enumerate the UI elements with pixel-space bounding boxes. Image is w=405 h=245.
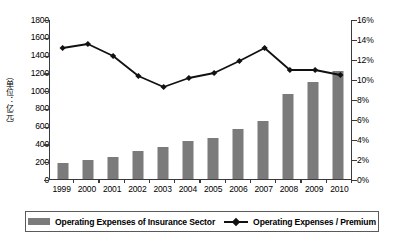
legend-label-line: Operating Expenses / Premium	[253, 217, 376, 227]
line-marker-1999	[60, 45, 66, 51]
x-axis-label-2004: 2004	[175, 183, 200, 197]
combo-chart: （单位：亿元） 02004006008001000120014001600180…	[0, 0, 405, 245]
left-axis-tick-label: 600	[3, 122, 49, 131]
legend-entry-bar: Operating Expenses of Insurance Sector	[28, 217, 215, 227]
x-axis-label-2009: 2009	[302, 183, 327, 197]
right-axis-tick-label: 10%	[357, 76, 397, 85]
line-series-layer	[50, 20, 353, 180]
line-marker-2005	[211, 70, 217, 76]
left-axis-tick-label: 0	[3, 176, 49, 185]
left-axis-tick-label: 1000	[3, 87, 49, 96]
x-axis-label-2002: 2002	[125, 183, 150, 197]
x-axis-label-2005: 2005	[201, 183, 226, 197]
right-axis-tick-label: 0%	[357, 176, 397, 185]
right-axis-tick-label: 16%	[357, 16, 397, 25]
line-diamond-marker-icon	[224, 217, 248, 226]
right-axis-tick-label: 8%	[357, 96, 397, 105]
left-axis-tick-label: 1400	[3, 51, 49, 60]
plot-area	[49, 20, 352, 180]
right-axis-tick-label: 6%	[357, 116, 397, 125]
right-axis-tick-label: 12%	[357, 56, 397, 65]
x-axis-label-2006: 2006	[226, 183, 251, 197]
right-axis-tick-mark	[352, 180, 357, 181]
left-axis-tick-label: 400	[3, 140, 49, 149]
chart-legend: Operating Expenses of Insurance Sector O…	[25, 211, 379, 232]
legend-entry-line: Operating Expenses / Premium	[224, 217, 376, 227]
line-marker-2009	[312, 67, 318, 73]
x-axis-label-2008: 2008	[276, 183, 301, 197]
x-axis-label-2000: 2000	[74, 183, 99, 197]
x-axis-category-labels: 1999200020012002200320042005200620072008…	[49, 183, 352, 197]
left-axis-tick-label: 200	[3, 158, 49, 167]
line-marker-2000	[85, 41, 91, 47]
x-axis-label-2010: 2010	[327, 183, 352, 197]
left-axis-tick-label: 1200	[3, 69, 49, 78]
line-marker-2006	[236, 58, 242, 64]
x-axis-label-1999: 1999	[49, 183, 74, 197]
left-axis-tick-label: 800	[3, 104, 49, 113]
x-axis-label-2001: 2001	[100, 183, 125, 197]
left-axis-tick-label: 1800	[3, 16, 49, 25]
x-axis-label-2007: 2007	[251, 183, 276, 197]
right-axis-tick-label: 14%	[357, 36, 397, 45]
bar-swatch-icon	[28, 218, 50, 225]
line-path	[63, 44, 341, 87]
line-marker-2010	[337, 72, 343, 78]
line-marker-2003	[161, 84, 167, 90]
x-axis-label-2003: 2003	[150, 183, 175, 197]
y-axis-unit-label: （单位：亿元）	[1, 72, 13, 128]
legend-label-bar: Operating Expenses of Insurance Sector	[55, 217, 215, 227]
left-axis-tick-label: 1600	[3, 33, 49, 42]
right-axis-tick-label: 2%	[357, 156, 397, 165]
line-marker-2004	[186, 75, 192, 81]
right-axis-tick-label: 4%	[357, 136, 397, 145]
